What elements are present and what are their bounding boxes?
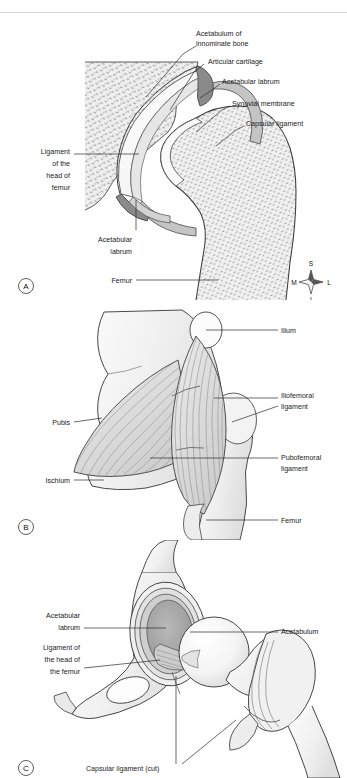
label-acetabular-labrum-bottom-l1: Acetabular: [98, 236, 133, 244]
label-acetabular-labrum-bottom-l2: labrum: [110, 248, 132, 256]
label-ilium: Ilium: [281, 327, 296, 335]
label-ligament-head-femur-c-l3: the femur: [50, 668, 81, 676]
orientation-compass: S I M L: [291, 260, 331, 300]
label-acetabulum-innominate-l1: Acetabulum of: [196, 30, 241, 38]
label-pubis: Pubis: [52, 419, 70, 427]
label-femur: Femur: [112, 277, 133, 285]
hip-joint-figure: Acetabulum of innominate bone Articular …: [0, 0, 347, 778]
label-acetabular-labrum-top: Acetabular labrum: [222, 78, 280, 86]
panel-b-anterior-ligaments: Ilium Iliofemoral ligament Pubis Pubofem…: [0, 300, 347, 540]
panel-a-coronal-section: Acetabulum of innominate bone Articular …: [0, 14, 347, 300]
top-divider-rule: [0, 12, 347, 13]
label-femur-b: Femur: [281, 517, 302, 525]
panel-a-key-letter: A: [23, 282, 29, 291]
label-acetabular-labrum-c-l2: labrum: [58, 624, 80, 632]
label-ligament-head-femur-c-l2: the head of: [45, 656, 81, 664]
panel-c-opened-joint: Acetabular labrum Acetabulum Ligament of…: [0, 540, 347, 778]
label-articular-cartilage: Articular cartilage: [208, 58, 263, 66]
label-iliofemoral-l1: Iliofemoral: [281, 392, 314, 400]
panel-c-key: C: [19, 761, 34, 776]
label-ischium: Ischium: [46, 477, 71, 485]
label-pubofemoral-l1: Pubofemoral: [281, 454, 322, 462]
compass-lateral-label: L: [327, 279, 331, 286]
compass-superior-label: S: [309, 260, 314, 267]
label-capsular-ligament: Capsular ligament: [246, 120, 303, 128]
label-ligament-head-femur-c-l1: Ligament of: [43, 644, 80, 652]
label-capsular-ligament-cut: Capsular ligament (cut): [86, 765, 159, 773]
panel-b-key-letter: B: [23, 523, 28, 532]
femur-bone: [150, 99, 310, 300]
panel-c-key-letter: C: [23, 764, 29, 773]
compass-medial-label: M: [291, 279, 297, 286]
label-iliofemoral-l2: ligament: [281, 403, 308, 411]
panel-b-key: B: [19, 520, 34, 535]
label-ligament-head-femur-l1: Ligament: [41, 148, 70, 156]
label-acetabulum-innominate-l2: innominate bone: [196, 40, 249, 48]
label-ligament-head-femur-l3: head of: [46, 172, 70, 180]
label-ligament-head-femur-l2: of the: [52, 160, 70, 168]
label-pubofemoral-l2: ligament: [281, 465, 308, 473]
label-ligament-head-femur-l4: femur: [52, 184, 71, 192]
label-acetabular-labrum-c-l1: Acetabular: [46, 612, 81, 620]
label-acetabulum: Acetabulum: [281, 628, 319, 636]
panel-a-key: A: [19, 279, 34, 294]
label-synovial-membrane: Synovial membrane: [232, 100, 295, 108]
